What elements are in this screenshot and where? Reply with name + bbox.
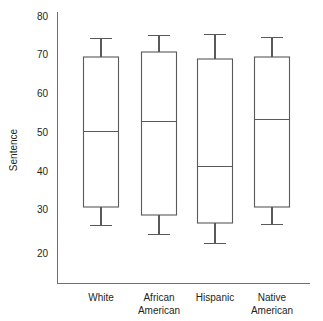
x-category-label-native-line2: American <box>251 305 293 316</box>
box-native-american <box>255 57 290 207</box>
y-tick-label-20: 20 <box>37 248 49 259</box>
chart-canvas: Sentence 80 70 60 50 40 30 20 <box>0 0 323 321</box>
y-tick-label-50: 50 <box>37 127 49 138</box>
box-hispanic <box>198 59 233 223</box>
y-tick-label-80: 80 <box>37 11 49 22</box>
box-african-american <box>142 52 177 215</box>
y-tick-label-40: 40 <box>37 166 49 177</box>
y-tick-label-30: 30 <box>37 204 49 215</box>
box-group-african-american <box>142 35 177 235</box>
box-plot-chart: Sentence 80 70 60 50 40 30 20 <box>0 0 323 321</box>
x-category-label-native: Native <box>258 292 287 303</box>
box-group-native-american <box>255 37 290 225</box>
y-tick-label-60: 60 <box>37 88 49 99</box>
x-category-label-african-line2: American <box>138 305 180 316</box>
x-category-label-hispanic: Hispanic <box>196 292 234 303</box>
y-tick-label-70: 70 <box>37 49 49 60</box>
x-category-label-african: African <box>143 292 174 303</box>
y-axis-label: Sentence <box>8 128 19 171</box>
box-group-white <box>84 38 119 226</box>
box-group-hispanic <box>198 34 233 244</box>
x-category-label-white: White <box>88 292 114 303</box>
